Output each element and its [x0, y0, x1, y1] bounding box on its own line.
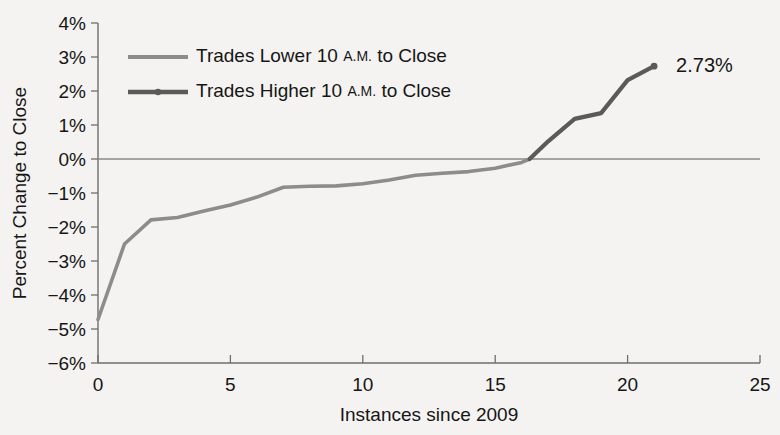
legend-item-0[interactable]: Trades Lower 10 A.M. to Close — [128, 45, 447, 66]
x-tick-label: 25 — [749, 374, 770, 395]
x-tick-label: 5 — [225, 374, 236, 395]
y-tick-label: −4% — [47, 285, 86, 306]
line-chart: 4%3%2%1%0%−1%−2%−3%−4%−5%−6%0510152025In… — [0, 0, 780, 435]
x-tick-label: 10 — [352, 374, 373, 395]
x-tick-label: 0 — [93, 374, 104, 395]
y-tick-label: −3% — [47, 251, 86, 272]
x-axis-title: Instances since 2009 — [340, 404, 519, 425]
y-tick-label: −2% — [47, 217, 86, 238]
series-line-trades-lower — [98, 159, 530, 319]
x-tick-label: 15 — [485, 374, 506, 395]
y-tick-label: 3% — [59, 47, 87, 68]
y-tick-label: 0% — [59, 149, 87, 170]
legend-label-trades-higher: Trades Higher 10 A.M. to Close — [196, 80, 451, 101]
y-tick-label: −5% — [47, 319, 86, 340]
y-tick-label: 2% — [59, 81, 87, 102]
y-tick-label: −1% — [47, 183, 86, 204]
chart-container: 4%3%2%1%0%−1%−2%−3%−4%−5%−6%0510152025In… — [0, 0, 780, 435]
y-tick-label: 1% — [59, 115, 87, 136]
legend-marker — [155, 89, 161, 95]
legend-item-1[interactable]: Trades Higher 10 A.M. to Close — [128, 80, 451, 101]
y-tick-label: 4% — [59, 13, 87, 34]
y-axis-title: Percent Change to Close — [9, 87, 30, 299]
y-tick-label: −6% — [47, 353, 86, 374]
data-label-final-value: 2.73% — [676, 54, 733, 76]
series-line-trades-higher — [530, 66, 654, 159]
x-tick-label: 20 — [617, 374, 638, 395]
legend-label-trades-lower: Trades Lower 10 A.M. to Close — [196, 45, 447, 66]
series-end-marker — [651, 63, 658, 70]
